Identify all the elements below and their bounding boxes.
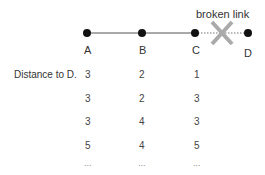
- distance-row-label: Distance to D.: [14, 69, 77, 80]
- node-label-b: B: [139, 44, 146, 56]
- table-cell: 3: [194, 93, 200, 104]
- table-cell-ellipsis: ...: [193, 158, 201, 168]
- table-cell-ellipsis: ...: [138, 158, 146, 168]
- table-cell: 3: [194, 116, 200, 127]
- table-cell: 4: [139, 140, 145, 151]
- table-cell: 3: [85, 93, 91, 104]
- table-cell: 2: [139, 69, 145, 80]
- table-cell-ellipsis: ...: [84, 158, 92, 168]
- node-label-c: C: [192, 44, 200, 56]
- broken-link-label: broken link: [196, 8, 249, 20]
- table-cell: 5: [85, 140, 91, 151]
- table-cell: 2: [139, 93, 145, 104]
- table-cell: 5: [194, 140, 200, 151]
- node-b: [138, 29, 146, 37]
- table-cell: 1: [194, 69, 200, 80]
- node-label-d: D: [244, 47, 252, 59]
- node-label-a: A: [84, 44, 91, 56]
- table-cell: 3: [85, 116, 91, 127]
- node-a: [83, 29, 91, 37]
- node-c: [191, 29, 199, 37]
- table-cell: 4: [139, 116, 145, 127]
- table-cell: 3: [85, 69, 91, 80]
- node-d: [244, 29, 252, 37]
